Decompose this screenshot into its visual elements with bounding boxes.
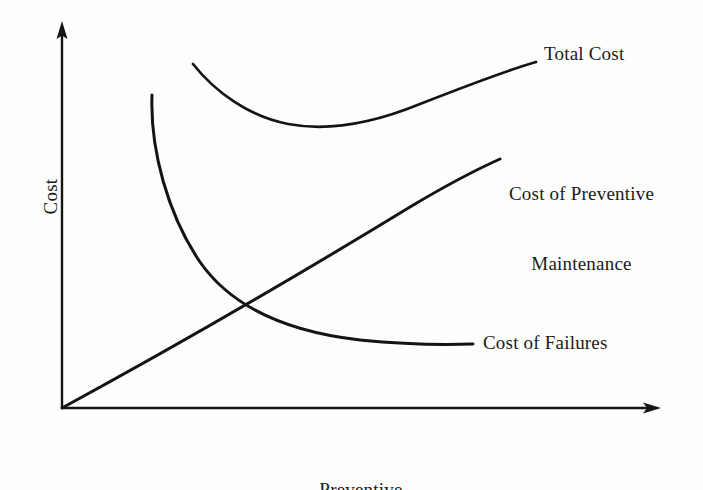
curve-cost-of-preventive-maintenance	[62, 159, 500, 408]
curve-cost-of-failures	[152, 95, 473, 344]
annotation-cost-of-preventive-maintenance-line1: Cost of Preventive	[509, 182, 654, 205]
annotation-cost-of-preventive-maintenance: Cost of Preventive Maintenance	[509, 136, 654, 321]
annotation-total-cost: Total Cost	[544, 42, 624, 65]
chart-figure: Total Cost Cost of Preventive Maintenanc…	[0, 0, 703, 490]
annotation-cost-of-preventive-maintenance-line2: Maintenance	[509, 252, 654, 275]
curve-total-cost	[193, 62, 536, 127]
y-axis-title: Cost	[39, 152, 62, 242]
annotation-cost-of-failures: Cost of Failures	[483, 331, 608, 354]
x-axis	[62, 403, 661, 414]
x-axis-title-line1: Preventive	[236, 478, 486, 490]
x-axis-title: Preventive Maintenance Effort	[236, 432, 486, 490]
